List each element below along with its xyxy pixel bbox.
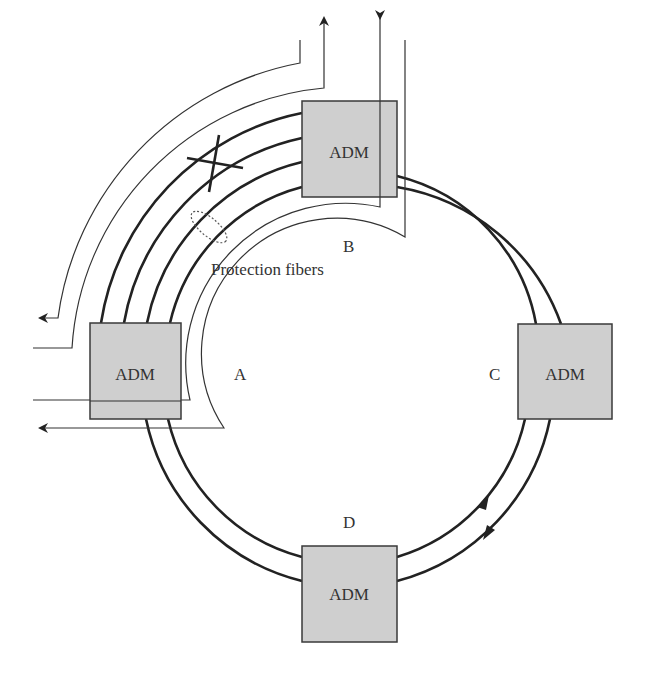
node-label-c: C: [489, 365, 500, 384]
adm-node-b: ADM: [302, 101, 397, 197]
adm-label-a: ADM: [115, 365, 155, 384]
adm-label-b: ADM: [329, 143, 369, 162]
fiber-segment-d-a: [146, 419, 302, 581]
fiber-segment-a-b: [101, 113, 302, 323]
rerouted-traffic-inner: [33, 18, 405, 428]
ring-network-diagram: ADM ADM ADM ADM A B C D Protection fiber…: [0, 0, 645, 686]
adm-node-d: ADM: [302, 546, 397, 642]
node-label-a: A: [234, 365, 247, 384]
protection-fibers-label: Protection fibers: [211, 260, 324, 279]
fiber-segment-b-c: [397, 176, 561, 324]
fiber-segment-c-d: [397, 419, 550, 581]
adm-label-d: ADM: [329, 585, 369, 604]
adm-label-c: ADM: [545, 365, 585, 384]
adm-node-a: ADM: [90, 323, 181, 419]
node-label-d: D: [343, 513, 355, 532]
node-label-b: B: [343, 237, 354, 256]
adm-node-c: ADM: [518, 324, 612, 419]
